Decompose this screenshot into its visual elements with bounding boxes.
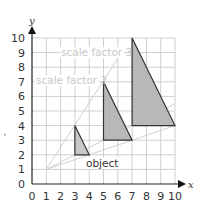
y-tick-label: 4 — [18, 120, 25, 133]
x-tick-label: 8 — [143, 190, 150, 203]
x-tick-label: 0 — [29, 190, 36, 203]
x-tick-label: 7 — [129, 190, 136, 203]
y-tick-label: 2 — [18, 149, 25, 162]
x-axis-label: x — [188, 179, 194, 190]
enlargement-diagram: x y 012345678910012345678910 scale facto… — [0, 0, 202, 211]
y-tick-label: 8 — [18, 61, 25, 74]
x-tick-label: 6 — [114, 190, 121, 203]
x-tick-label: 2 — [57, 190, 64, 203]
x-tick-label: 10 — [168, 190, 182, 203]
x-tick-label: 5 — [100, 190, 107, 203]
y-tick-label: 10 — [11, 32, 25, 45]
x-axis-arrow-icon — [178, 180, 186, 188]
label-scale-factor-2: scale factor 2 — [35, 74, 107, 86]
x-tick-label: 1 — [43, 190, 50, 203]
label-object: object — [84, 157, 120, 169]
scale-factor-3-label: scale factor 3 — [61, 46, 132, 58]
y-axis-arrow-icon — [28, 26, 36, 34]
y-tick-label: 6 — [18, 90, 25, 103]
object-label: object — [86, 157, 118, 169]
y-tick-label: 3 — [18, 134, 25, 147]
y-tick-label: 0 — [18, 178, 25, 191]
x-tick-label: 4 — [86, 190, 93, 203]
y-tick-label: 5 — [18, 105, 25, 118]
stray-mark — [4, 134, 6, 136]
y-tick-label: 7 — [18, 76, 25, 89]
x-tick-label: 9 — [157, 190, 164, 203]
y-tick-label: 1 — [18, 163, 25, 176]
x-tick-label: 3 — [71, 190, 78, 203]
y-tick-label: 9 — [18, 47, 25, 60]
scale-factor-2-label: scale factor 2 — [36, 74, 107, 86]
y-axis-label: y — [28, 15, 35, 26]
label-scale-factor-3: scale factor 3 — [60, 46, 132, 58]
